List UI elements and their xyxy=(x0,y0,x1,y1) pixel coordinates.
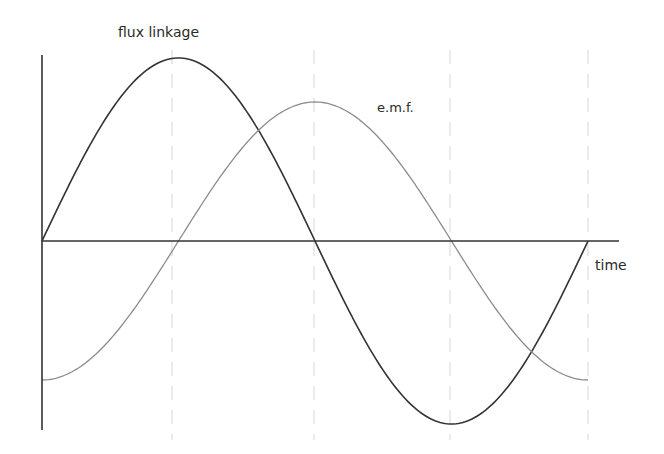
emf-label: e.m.f. xyxy=(377,101,414,114)
time-axis-label: time xyxy=(595,258,627,272)
flux-emf-diagram xyxy=(0,0,664,454)
flux-linkage-label: flux linkage xyxy=(118,25,199,39)
